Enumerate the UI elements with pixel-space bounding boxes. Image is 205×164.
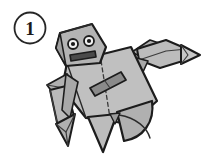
step-badge: 1	[15, 13, 46, 44]
illustration-canvas: 1	[0, 0, 205, 164]
right-pupil	[87, 39, 91, 43]
step-badge-label: 1	[25, 18, 35, 39]
left-pupil	[71, 42, 75, 46]
origami-robot-figure: 1	[0, 0, 205, 164]
